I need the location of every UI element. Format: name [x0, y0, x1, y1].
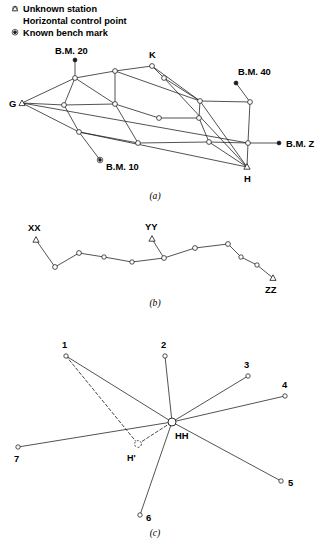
survey-network-figure: Unknown station Horizontal control point… — [0, 0, 323, 553]
edge-4-hh — [172, 396, 285, 422]
bench-mark-bm10-icon — [99, 159, 102, 162]
station-node — [150, 64, 155, 69]
edge-t6-t7 — [195, 244, 228, 248]
station-node — [207, 140, 212, 145]
edge-xx-t1 — [36, 240, 55, 267]
edge-7-hh — [18, 422, 172, 447]
edge-s6-s14 — [248, 102, 250, 143]
label-xx: XX — [28, 222, 41, 233]
station-node — [157, 116, 162, 121]
station-node — [162, 76, 167, 81]
edge-s10-s13 — [199, 118, 209, 142]
edge-6-hh — [140, 422, 172, 515]
panel-a-triangulation-network: B.M. 20 B.M. 40 B.M. 10 B.M. Z G K H (a) — [9, 45, 314, 202]
panel-a-labels: B.M. 20 B.M. 40 B.M. 10 B.M. Z G K H — [9, 45, 314, 184]
label-bm20: B.M. 20 — [55, 45, 88, 56]
station-node-7 — [16, 445, 20, 449]
panel-c-labels: 1 2 3 4 5 6 7 HH H' — [14, 339, 293, 523]
edge-3-hh — [172, 376, 248, 422]
station-node-1 — [64, 354, 68, 358]
edge-hprime-hh-dashed — [138, 422, 172, 444]
station-node — [136, 141, 141, 146]
label-2: 2 — [161, 339, 166, 350]
edge-s3-s5 — [152, 66, 200, 101]
station-node — [113, 102, 118, 107]
label-hh: HH — [175, 430, 189, 441]
station-node — [73, 76, 78, 81]
edge-s2-s3 — [115, 66, 152, 71]
station-node — [162, 256, 167, 261]
filled-ringed-dot-icon — [14, 31, 17, 34]
station-node — [62, 103, 67, 108]
panel-b-open-traverse: XX YY ZZ (b) — [28, 221, 277, 309]
label-bm10: B.M. 10 — [106, 161, 139, 172]
control-point-xx-icon — [33, 237, 39, 243]
station-node — [102, 255, 106, 259]
edge-s11-h — [79, 132, 247, 167]
edge-yy-t5 — [152, 239, 164, 258]
station-node — [246, 141, 251, 146]
label-h: H — [244, 173, 251, 184]
station-node — [226, 242, 231, 247]
edge-s11-bm10 — [79, 132, 100, 160]
station-node — [77, 251, 82, 256]
station-node — [248, 100, 253, 105]
control-point-yy-icon — [149, 236, 155, 242]
station-node — [255, 263, 259, 267]
label-4: 4 — [282, 379, 288, 390]
station-node-6 — [138, 513, 142, 517]
edge-s7-s8 — [64, 104, 115, 105]
edge-s1-s8 — [75, 78, 115, 104]
edge-s5-h — [200, 101, 247, 167]
bench-mark-bm40-icon — [234, 81, 238, 85]
edge-t1-t2 — [55, 253, 79, 267]
hub-node-hh — [168, 418, 176, 426]
station-node-3 — [246, 374, 250, 378]
bench-mark-bm20-icon — [73, 58, 77, 62]
station-node — [130, 260, 134, 264]
caption-b: (b) — [149, 297, 160, 309]
station-node — [113, 69, 118, 74]
label-7: 7 — [14, 453, 19, 464]
label-yy: YY — [145, 221, 158, 232]
edge-t9-zz — [257, 265, 273, 278]
figure-canvas: Unknown station Horizontal control point… — [0, 0, 323, 553]
ghost-node-h-prime — [135, 441, 142, 448]
label-bmz: B.M. Z — [286, 138, 314, 149]
label-zz: ZZ — [265, 284, 277, 295]
station-node — [53, 265, 58, 270]
edge-s1-s2 — [75, 71, 115, 78]
station-node — [198, 99, 203, 104]
edge-2-hh — [165, 356, 172, 422]
edge-s12-s13 — [138, 142, 209, 143]
bench-mark-bmz-icon — [277, 141, 281, 145]
edge-1-hh — [66, 356, 172, 422]
station-node-4 — [283, 394, 287, 398]
label-g: G — [9, 98, 16, 109]
label-h-prime: H' — [127, 453, 136, 463]
station-node — [239, 255, 243, 259]
legend-label-unknown-station: Unknown station — [23, 4, 97, 14]
legend: Unknown station Horizontal control point… — [12, 4, 127, 38]
panel-b-edges — [36, 239, 273, 278]
label-6: 6 — [146, 512, 151, 523]
station-node-2 — [163, 354, 167, 358]
edge-t5-t6 — [164, 248, 195, 258]
station-node — [77, 130, 82, 135]
station-node-5 — [279, 479, 283, 483]
station-node — [197, 116, 202, 121]
control-point-zz-icon — [270, 275, 276, 281]
edge-t3-t4 — [104, 257, 132, 262]
legend-label-horizontal-control-point: Horizontal control point — [23, 16, 127, 26]
label-bm40: B.M. 40 — [238, 66, 271, 77]
edge-g-s1 — [22, 78, 75, 103]
edge-g-s14 — [22, 103, 248, 143]
legend-label-known-bench-mark: Known bench mark — [23, 28, 109, 38]
label-3: 3 — [244, 359, 249, 370]
edge-t8-t9 — [241, 257, 257, 265]
edge-s2-s5 — [115, 71, 200, 101]
station-node — [193, 246, 198, 251]
edge-1-hprime-dashed — [66, 356, 138, 444]
caption-a: (a) — [149, 190, 160, 202]
caption-c: (c) — [150, 527, 161, 539]
